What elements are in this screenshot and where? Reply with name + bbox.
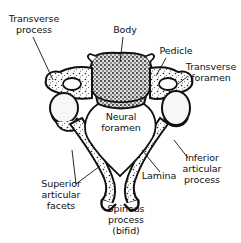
- leader-transverse-process: [33, 37, 53, 80]
- vertebral-body: [88, 53, 154, 109]
- label-transverse-foramen: Transverse foramen: [183, 61, 239, 83]
- right-articular-pillar: [162, 91, 190, 126]
- right-transverse-foramen: [159, 78, 177, 90]
- label-line: Neural: [96, 111, 146, 122]
- label-neural-foramen: Neural foramen: [96, 111, 146, 133]
- label-line: process: [176, 174, 228, 185]
- label-line: Body: [107, 24, 143, 35]
- label-line: process: [6, 24, 62, 35]
- label-line: Transverse: [6, 13, 62, 24]
- label-line: foramen: [183, 72, 239, 83]
- label-transverse-process: Transverse process: [6, 13, 62, 35]
- label-body: Body: [107, 24, 143, 35]
- label-spinous-process: Spinous process (bifid): [103, 203, 149, 236]
- label-line: articular: [36, 189, 86, 200]
- label-line: Pedicle: [154, 45, 198, 56]
- label-line: foramen: [96, 122, 146, 133]
- label-line: Transverse: [183, 61, 239, 72]
- label-line: (bifid): [103, 225, 149, 236]
- label-line: facets: [36, 200, 86, 211]
- label-line: Lamina: [139, 170, 179, 181]
- label-line: Inferior: [176, 152, 228, 163]
- label-line: Superior: [36, 178, 86, 189]
- label-inferior-articular-process: Inferior articular process: [176, 152, 228, 185]
- label-line: process: [103, 214, 149, 225]
- vertebra-diagram: Transverse process Body Pedicle Transver…: [0, 0, 241, 243]
- label-line: articular: [176, 163, 228, 174]
- label-superior-articular-facets: Superior articular facets: [36, 178, 86, 211]
- label-lamina: Lamina: [139, 170, 179, 181]
- label-line: Spinous: [103, 203, 149, 214]
- label-pedicle: Pedicle: [154, 45, 198, 56]
- left-transverse-foramen: [63, 78, 81, 90]
